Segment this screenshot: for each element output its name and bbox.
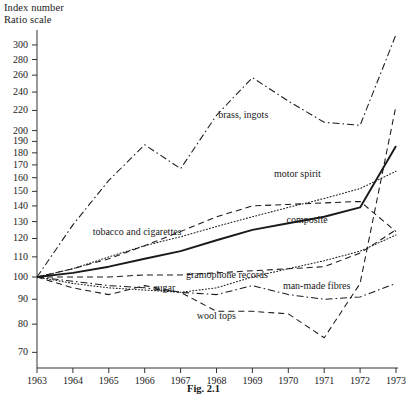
figure-caption: Fig. 2.1 xyxy=(0,383,407,394)
y-tick-label: 240 xyxy=(2,86,28,97)
y-tick-label: 180 xyxy=(2,147,28,158)
plot-area xyxy=(0,0,407,404)
y-tick-label: 130 xyxy=(2,216,28,227)
series-label-man-made-fibres: man-made fibres xyxy=(283,280,350,291)
y-tick-label: 80 xyxy=(2,318,28,329)
series-group xyxy=(37,35,396,338)
series-line-composite xyxy=(37,146,396,277)
y-tick-label: 120 xyxy=(2,232,28,243)
y-tick-label: 170 xyxy=(2,159,28,170)
y-tick-label: 140 xyxy=(2,200,28,211)
y-tick-label: 90 xyxy=(2,293,28,304)
y-tick-label: 280 xyxy=(2,54,28,65)
y-tick-label: 100 xyxy=(2,271,28,282)
y-tick-label: 160 xyxy=(2,172,28,183)
series-label-composite: composite xyxy=(287,214,328,225)
chart-figure: Index number Ratio scale 708090100110120… xyxy=(0,0,407,404)
y-tick-label: 190 xyxy=(2,135,28,146)
y-tick-label: 150 xyxy=(2,185,28,196)
series-line-wool-tops xyxy=(37,106,396,338)
y-tick-label: 110 xyxy=(2,251,28,262)
series-label-brass-ingots: brass, ingots xyxy=(218,109,268,120)
series-label-tobacco-and-cigarettes: tobacco and cigarettes xyxy=(93,226,182,237)
y-tick-label: 300 xyxy=(2,39,28,50)
series-label-motor-spirit: motor spirit xyxy=(274,168,321,179)
series-label-gramophone-records: gramophone records xyxy=(186,269,268,280)
y-tick-label: 200 xyxy=(2,125,28,136)
series-label-sugar: sugar xyxy=(154,282,176,293)
y-tick-label: 70 xyxy=(2,346,28,357)
y-tick-label: 220 xyxy=(2,104,28,115)
y-tick-label: 260 xyxy=(2,69,28,80)
series-label-wool-tops: wool tops xyxy=(197,310,236,321)
series-line-motor-spirit xyxy=(37,171,396,277)
